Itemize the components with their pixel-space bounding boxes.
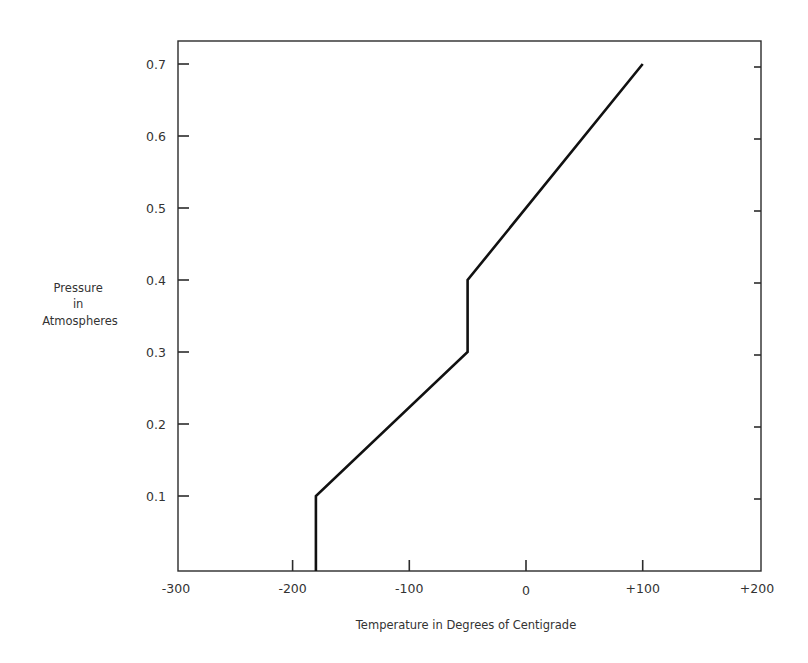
y-tick-label: 0.6 bbox=[146, 129, 166, 144]
x-tick-label: -200 bbox=[278, 581, 306, 596]
y-axis-label: Pressure in Atmospheres bbox=[42, 281, 118, 328]
y-axis-label-line-3: Atmospheres bbox=[42, 314, 118, 328]
x-tick-label: +100 bbox=[626, 581, 660, 596]
y-axis-label-line-1: Pressure bbox=[54, 281, 103, 295]
y-tick-label: 0.1 bbox=[146, 489, 166, 504]
x-tick-label: -300 bbox=[162, 581, 190, 596]
y-tick-label: 0.5 bbox=[146, 201, 166, 216]
x-tick-label: 0 bbox=[522, 583, 530, 598]
data-line bbox=[316, 64, 643, 571]
x-axis-label: Temperature in Degrees of Centigrade bbox=[355, 618, 576, 632]
x-tick-label: -100 bbox=[395, 581, 423, 596]
y-tick-label: 0.4 bbox=[146, 273, 166, 288]
x-axis-ticks: -300-200-1000+100+200 bbox=[162, 560, 774, 598]
y-axis-label-line-2: in bbox=[73, 297, 83, 311]
y-tick-label: 0.2 bbox=[146, 417, 166, 432]
pressure-temperature-chart: 0.10.20.30.40.50.60.7 -300-200-1000+100+… bbox=[0, 0, 808, 663]
y-axis-ticks: 0.10.20.30.40.50.60.7 bbox=[146, 57, 761, 504]
y-tick-label: 0.3 bbox=[146, 345, 166, 360]
x-tick-label: +200 bbox=[740, 581, 774, 596]
y-tick-label: 0.7 bbox=[146, 57, 166, 72]
plot-frame bbox=[178, 41, 761, 571]
